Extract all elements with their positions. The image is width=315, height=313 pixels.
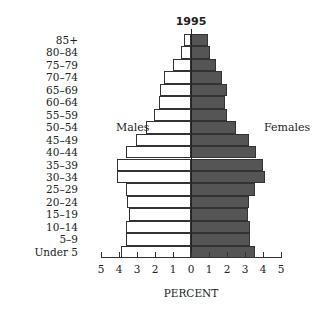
x-tick-label: 1 — [202, 263, 216, 275]
female-bar — [191, 34, 208, 46]
age-label: 85+ — [56, 34, 78, 46]
female-bar — [191, 159, 263, 171]
age-label: 5–9 — [59, 233, 78, 245]
female-bar — [191, 121, 236, 133]
x-tick — [227, 252, 228, 258]
center-axis-line — [191, 29, 192, 258]
age-label: 15–19 — [46, 208, 78, 220]
male-bar — [173, 59, 191, 71]
x-tick-label: 4 — [112, 263, 126, 275]
male-bar — [129, 208, 191, 220]
age-label: 40–44 — [46, 146, 78, 158]
age-label: 10–14 — [46, 221, 78, 233]
female-bar — [191, 183, 255, 195]
male-bar — [160, 84, 191, 96]
age-label: 45–49 — [46, 134, 78, 146]
x-tick-label: 3 — [238, 263, 252, 275]
female-bar — [191, 196, 249, 208]
age-label: 70–74 — [46, 71, 78, 83]
age-label: 75–79 — [46, 59, 78, 71]
x-tick — [119, 252, 120, 258]
male-bar — [117, 159, 191, 171]
female-bar — [191, 221, 250, 233]
x-tick — [281, 252, 282, 258]
female-bar — [191, 171, 265, 183]
male-bar — [117, 171, 191, 183]
x-axis-label: PERCENT — [141, 287, 241, 299]
male-bar — [146, 121, 191, 133]
x-tick-label: 2 — [148, 263, 162, 275]
male-bar — [126, 183, 191, 195]
x-tick — [101, 252, 102, 258]
x-tick-label: 4 — [256, 263, 270, 275]
females-label: Females — [264, 121, 310, 134]
female-bar — [191, 71, 222, 83]
male-bar — [164, 71, 191, 83]
female-bar — [191, 134, 249, 146]
x-tick-label: 5 — [274, 263, 288, 275]
age-label: 80–84 — [46, 46, 78, 58]
male-bar — [126, 146, 191, 158]
age-label: 60–64 — [46, 96, 78, 108]
population-pyramid-chart: 1995 85+80–8475–7970–7465–6960–6455–5950… — [0, 0, 315, 313]
x-tick — [191, 252, 192, 258]
female-bar — [191, 59, 216, 71]
female-bar — [191, 233, 250, 245]
male-bar — [159, 96, 191, 108]
age-label: 30–34 — [46, 171, 78, 183]
age-label: 25–29 — [46, 183, 78, 195]
x-tick — [263, 252, 264, 258]
female-bar — [191, 84, 227, 96]
age-label: 50–54 — [46, 121, 78, 133]
age-label: 65–69 — [46, 84, 78, 96]
males-label: Males — [116, 121, 150, 134]
female-bar — [191, 96, 225, 108]
age-label: 55–59 — [46, 109, 78, 121]
male-bar — [181, 46, 191, 58]
male-bar — [154, 109, 191, 121]
age-label: 35–39 — [46, 159, 78, 171]
male-bar — [126, 221, 191, 233]
age-label: 20–24 — [46, 196, 78, 208]
male-bar — [127, 196, 191, 208]
x-tick-label: 3 — [130, 263, 144, 275]
female-bar — [191, 146, 256, 158]
x-tick-label: 5 — [94, 263, 108, 275]
x-tick-label: 2 — [220, 263, 234, 275]
male-bar — [136, 134, 191, 146]
x-tick-label: 1 — [166, 263, 180, 275]
x-tick — [155, 252, 156, 258]
age-label: Under 5 — [34, 246, 78, 258]
x-tick — [209, 252, 210, 258]
x-tick — [173, 252, 174, 258]
x-tick — [245, 252, 246, 258]
male-bar — [126, 233, 191, 245]
chart-title: 1995 — [171, 15, 211, 28]
x-tick-label: 0 — [184, 263, 198, 275]
female-bar — [191, 109, 227, 121]
female-bar — [191, 46, 210, 58]
x-tick — [137, 252, 138, 258]
female-bar — [191, 208, 248, 220]
